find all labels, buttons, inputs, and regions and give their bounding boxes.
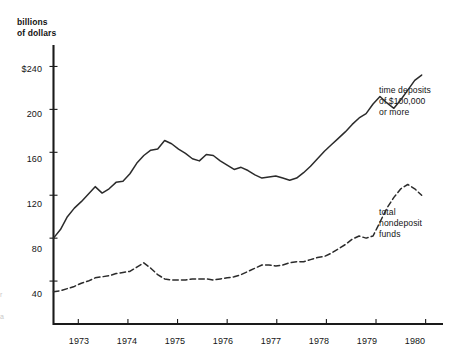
axes	[54, 45, 444, 325]
series-line-2	[54, 185, 422, 292]
series-line-1	[54, 75, 422, 238]
plot-area	[0, 0, 454, 363]
data-series	[54, 75, 422, 292]
chart-container: billions of dollars $240 200 160 120 80 …	[0, 0, 454, 363]
